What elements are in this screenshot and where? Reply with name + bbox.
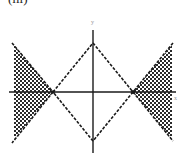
y-axis-label: y (91, 19, 94, 25)
diamond-lower-left (53, 92, 93, 141)
right-vertex (131, 90, 135, 94)
diamond-lower-right (93, 92, 133, 141)
diamond-upper-right (93, 43, 133, 92)
region-plot: y x (0, 0, 181, 158)
diamond-upper-left (53, 43, 93, 92)
left-vertex (51, 90, 55, 94)
x-axis-label: x (174, 95, 177, 101)
